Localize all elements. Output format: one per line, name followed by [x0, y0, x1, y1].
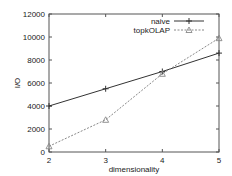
plus-marker-icon [103, 86, 109, 92]
axes: 0200040006000800010000120002345 [23, 10, 222, 165]
legend-label-topkOLAP: topkOLAP [134, 26, 170, 35]
series-line [49, 38, 219, 146]
series-naive [46, 50, 222, 109]
triangle-marker-icon [103, 117, 109, 123]
y-tick-label: 12000 [23, 10, 46, 19]
series-layer [46, 35, 222, 149]
x-axis-label: dimensionality [109, 165, 160, 174]
x-tick-label: 3 [103, 156, 108, 165]
x-tick-label: 2 [47, 156, 52, 165]
series-topkOLAP [46, 35, 222, 149]
x-tick-label: 5 [217, 156, 222, 165]
plus-marker-icon [186, 18, 192, 24]
y-axis-label: I/O [13, 78, 22, 89]
line-chart: 0200040006000800010000120002345 naivetop… [0, 0, 232, 176]
legend-label-naive: naive [151, 17, 171, 26]
y-tick-label: 8000 [27, 56, 45, 65]
plus-marker-icon [46, 103, 52, 109]
y-tick-label: 4000 [27, 102, 45, 111]
y-tick-label: 2000 [27, 125, 45, 134]
legend: naivetopkOLAP [134, 17, 204, 35]
x-tick-label: 4 [160, 156, 165, 165]
y-tick-label: 10000 [23, 33, 46, 42]
y-tick-label: 6000 [27, 79, 45, 88]
series-line [49, 53, 219, 106]
y-tick-label: 0 [41, 148, 46, 157]
plus-marker-icon [216, 50, 222, 56]
